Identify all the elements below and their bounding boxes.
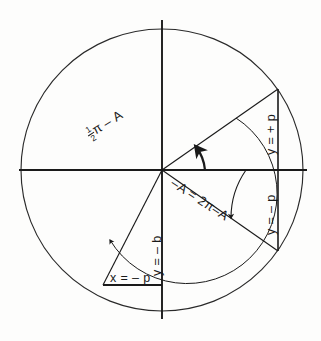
- label-x-minus-p: x = – p: [110, 272, 151, 285]
- arc-angle-A: [196, 147, 205, 170]
- diagram-canvas: [0, 0, 321, 341]
- label-y-minus-b: y = – b: [151, 235, 164, 276]
- label-y-plus-p: y = + p: [265, 114, 278, 155]
- label-y-minus-p: y = – p: [265, 194, 278, 235]
- ray-angle-A: [162, 89, 278, 170]
- trig-circle-figure: 12π– A y = + p y = – p y = – b x = – p –…: [0, 0, 321, 341]
- arc-negative-A: [231, 170, 246, 218]
